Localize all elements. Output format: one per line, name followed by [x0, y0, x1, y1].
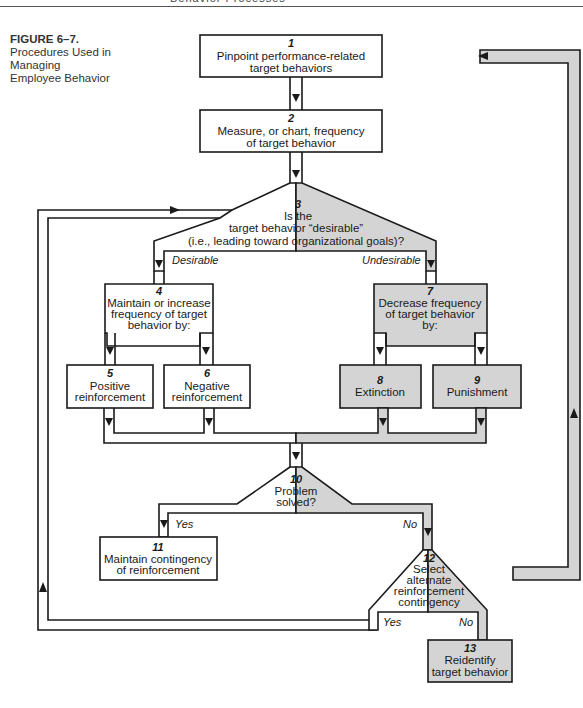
node-5-number: 5 — [107, 367, 114, 379]
arrow-down-icon — [292, 452, 300, 460]
connector-1-2 — [290, 77, 302, 110]
node-4-label: behavior by: — [128, 319, 191, 331]
branch-12-no: No — [459, 616, 473, 628]
branch-10-yes: Yes — [175, 518, 194, 530]
arrow-down-icon — [106, 347, 114, 355]
node-13-number: 13 — [464, 642, 476, 654]
node-1-label: Pinpoint performance-related — [217, 50, 365, 62]
node-1-number: 1 — [288, 37, 294, 49]
node-10-number: 10 — [290, 473, 303, 485]
flowchart: 1 Pinpoint performance-related target be… — [0, 0, 583, 708]
return-path-to-1 — [480, 50, 580, 580]
branch-desirable: Desirable — [172, 254, 218, 266]
node-13-label: target behavior — [432, 666, 509, 678]
node-10-label: solved? — [276, 496, 316, 508]
node-2-label: Measure, or chart, frequency — [217, 125, 364, 137]
arrow-down-icon — [292, 94, 300, 102]
node-2-label: of target behavior — [246, 137, 336, 149]
node-9-number: 9 — [474, 374, 481, 386]
node-6-label: reinforcement — [172, 391, 243, 403]
node-2-number: 2 — [287, 112, 294, 124]
node-13-label: Reidentify — [444, 654, 495, 666]
node-5-label: reinforcement — [75, 391, 146, 403]
merge-bus-left — [104, 408, 296, 443]
node-10-decision-right — [296, 467, 432, 550]
arrow-right-icon — [170, 206, 180, 214]
node-8-number: 8 — [377, 374, 384, 386]
arrow-down-icon — [202, 347, 210, 355]
node-1-label: target behaviors — [250, 62, 333, 74]
node-3-label: Is the — [284, 210, 312, 222]
arrow-down-icon — [477, 347, 485, 355]
node-labels: 1 Pinpoint performance-related target be… — [75, 37, 509, 678]
node-9-label: Punishment — [447, 386, 509, 398]
node-7-label: by: — [422, 319, 437, 331]
node-12-label: contingency — [398, 596, 460, 608]
node-3-label: target behavior “desirable” — [229, 222, 363, 234]
node-4-number: 4 — [155, 285, 162, 297]
merge-bus-right — [296, 408, 486, 443]
node-3-number: 3 — [295, 198, 301, 210]
node-11-label: of reinforcement — [116, 564, 200, 576]
branch-12-yes: Yes — [383, 616, 402, 628]
arrow-down-icon — [292, 170, 300, 178]
node-8-label: Extinction — [355, 386, 405, 398]
branch-undesirable: Undesirable — [362, 254, 421, 266]
node-6-number: 6 — [204, 367, 211, 379]
arrow-down-icon — [105, 418, 113, 426]
connector-2-3 — [290, 152, 302, 183]
branch-10-no: No — [403, 518, 417, 530]
node-11-number: 11 — [152, 541, 163, 553]
node-3-label: (i.e., leading toward organizational goa… — [188, 235, 404, 247]
arrow-down-icon — [376, 347, 384, 355]
node-7-number: 7 — [427, 285, 434, 297]
arrow-up-icon — [39, 582, 47, 592]
arrow-down-icon — [205, 418, 213, 426]
